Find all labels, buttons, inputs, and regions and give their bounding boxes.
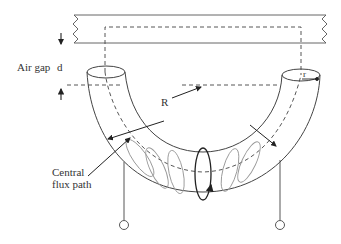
toroid-air-gap-diagram: Air gap d R r Central flux path bbox=[0, 0, 341, 244]
air-gap-label: Air gap bbox=[17, 61, 51, 73]
coil-windings bbox=[122, 136, 265, 195]
minor-radius-label: r bbox=[303, 69, 306, 79]
radius-R-arrow bbox=[172, 87, 201, 98]
gap-symbol-label: d bbox=[57, 61, 63, 73]
cross-section-arrows bbox=[108, 121, 276, 146]
flux-path-label-line1: Central bbox=[52, 166, 84, 178]
flux-path-label-line2: flux path bbox=[52, 178, 92, 190]
keeper-bar bbox=[73, 15, 327, 43]
terminal-leads bbox=[120, 160, 285, 230]
major-radius-label: R bbox=[161, 96, 169, 108]
